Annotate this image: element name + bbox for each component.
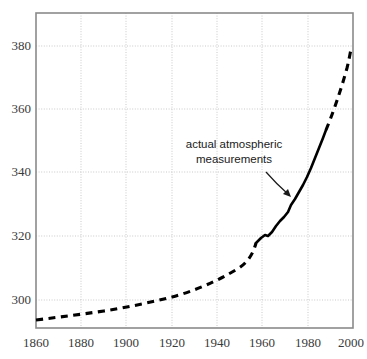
y-tick-label: 380 [12, 38, 32, 53]
x-tick-label: 1920 [159, 335, 185, 350]
x-tick-label: 1860 [23, 335, 49, 350]
x-axis-tick-labels: 1860 1880 1900 1920 1940 1960 1980 2000 [23, 335, 364, 350]
x-tick-label: 1980 [295, 335, 321, 350]
annotation-line-1: actual atmospheric [186, 138, 283, 150]
y-tick-label: 340 [12, 164, 32, 179]
co2-concentration-chart: 380 360 340 320 300 1860 1880 1900 1920 … [0, 0, 367, 359]
x-tick-label: 1900 [113, 335, 139, 350]
y-axis-tick-labels: 380 360 340 320 300 [12, 38, 32, 307]
x-tick-label: 1940 [204, 335, 230, 350]
y-tick-label: 360 [12, 101, 32, 116]
y-tick-label: 300 [12, 292, 32, 307]
chart-canvas: 380 360 340 320 300 1860 1880 1900 1920 … [0, 0, 367, 359]
x-tick-label: 1960 [249, 335, 275, 350]
x-tick-label: 2000 [338, 335, 364, 350]
annotation-line-2: measurements [196, 153, 272, 165]
x-tick-label: 1880 [68, 335, 94, 350]
y-tick-label: 320 [12, 228, 32, 243]
plot-background [36, 13, 353, 328]
